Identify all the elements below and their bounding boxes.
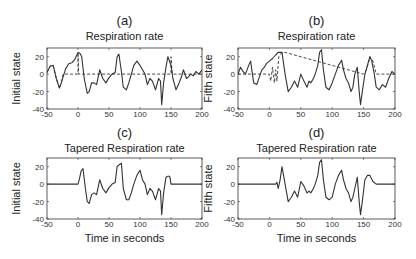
x-tick-label: 50 [296,110,305,119]
series-solid-line [238,50,395,105]
panel-title: Respiration rate [86,30,164,42]
figure-canvas: (a)Respiration rateInitial state-5005010… [0,0,416,259]
x-tick-label: 50 [105,110,114,119]
y-tick-label: 0 [231,180,236,189]
y-tick-label: 0 [40,180,45,189]
series-dashed-line [238,52,395,83]
x-tick-label: 0 [267,110,272,119]
axes-frame [47,48,202,109]
y-tick-label: 0 [231,70,236,79]
y-axis-label: Fifth state [202,164,214,212]
y-tick-label: 20 [35,53,44,62]
y-tick-label: -20 [223,198,235,207]
y-axis-label: Fifth state [202,54,214,102]
x-tick-label: 100 [133,220,147,229]
x-tick-label: 150 [357,220,371,229]
y-tick-label: 20 [226,163,235,172]
x-tick-label: 100 [326,110,340,119]
x-tick-label: 0 [76,220,81,229]
panel-letter: (a) [117,13,133,28]
y-tick-label: -20 [223,88,235,97]
y-tick-label: 20 [35,163,44,172]
x-tick-label: 200 [388,110,402,119]
y-tick-label: -20 [32,198,44,207]
panel-a: (a)Respiration rateInitial state-5005010… [10,13,209,119]
x-tick-label: 150 [164,220,178,229]
axes-frame [47,158,202,219]
axes-frame [238,48,395,109]
x-tick-label: 50 [296,220,305,229]
axes-frame [238,158,395,219]
panel-c: (c)Tapered Respiration rateInitial state… [10,125,209,244]
panel-title: Respiration rate [278,30,356,42]
y-tick-label: -40 [32,105,44,114]
panel-letter: (c) [117,125,132,140]
panel-title: Tapered Respiration rate [64,142,184,154]
series-solid-line [238,160,395,215]
x-tick-label: 150 [164,110,178,119]
x-tick-label: 200 [388,220,402,229]
x-tick-label: 150 [357,110,371,119]
y-tick-label: -20 [32,88,44,97]
x-tick-label: 50 [105,220,114,229]
x-tick-label: 0 [267,220,272,229]
y-tick-label: -40 [223,105,235,114]
panel-d: (d)Tapered Respiration rateFifth stateTi… [202,125,402,244]
x-tick-label: 200 [195,110,209,119]
y-tick-label: 20 [226,53,235,62]
figure: (a)Respiration rateInitial state-5005010… [0,0,416,259]
y-axis-label: Initial state [10,162,22,215]
y-tick-label: 0 [40,70,45,79]
x-tick-label: 200 [195,220,209,229]
x-tick-label: 100 [326,220,340,229]
x-tick-label: 100 [133,110,147,119]
y-tick-label: -40 [223,215,235,224]
y-tick-label: -40 [32,215,44,224]
panel-title: Tapered Respiration rate [256,142,376,154]
x-tick-label: 0 [76,110,81,119]
panel-letter: (d) [309,125,325,140]
x-axis-label: Time in seconds [85,232,165,244]
series-solid-line [47,52,202,104]
panel-b: (b)Respiration rateFifth state-500501001… [202,13,402,119]
panel-letter: (b) [309,13,325,28]
x-axis-label: Time in seconds [277,232,357,244]
y-axis-label: Initial state [10,52,22,105]
series-solid-line [47,163,202,214]
